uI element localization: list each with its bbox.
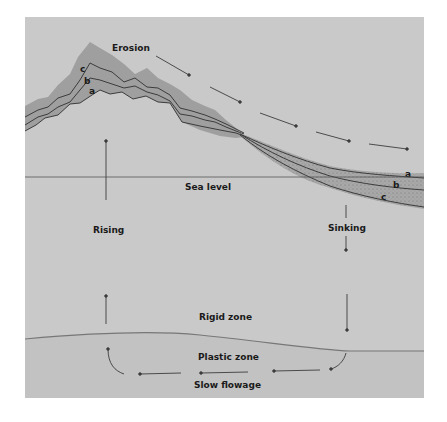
basin-label-c: c [381,192,386,202]
plastic-zone-label: Plastic zone [198,352,259,362]
basin-label-a: a [405,169,411,179]
rigid-zone-label: Rigid zone [199,312,252,322]
erosion-label: Erosion [112,43,150,53]
sea-level-label: Sea level [185,182,231,192]
mountain-label-a: a [89,86,95,96]
rising-label: Rising [93,225,124,235]
mountain-label-c: c [80,64,85,74]
isostasy-diagram: c b a a b c Sea level Erosion Rising Sin… [0,0,447,422]
slow-flowage-label: Slow flowage [194,380,261,390]
sinking-label: Sinking [328,223,366,233]
mountain-label-b: b [84,76,91,86]
basin-label-b: b [393,180,400,190]
